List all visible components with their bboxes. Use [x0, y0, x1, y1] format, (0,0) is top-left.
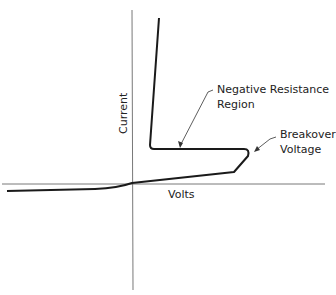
breakover-label-line1: Breakover	[280, 128, 336, 142]
breakover-arrowhead	[254, 146, 260, 152]
negative-resistance-arrow	[180, 90, 213, 146]
y-axis	[132, 10, 133, 290]
x-axis-label: Volts	[168, 188, 195, 202]
y-axis-label: Current	[117, 93, 131, 134]
breakover-arrow	[256, 137, 276, 150]
negative-resistance-label-line1: Negative Resistance	[217, 83, 329, 97]
breakover-label-line2: Voltage	[280, 143, 321, 157]
negative-resistance-label-line2: Region	[217, 98, 255, 112]
